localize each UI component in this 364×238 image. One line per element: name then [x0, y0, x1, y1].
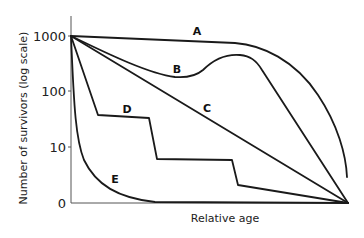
survivorship-chart: 1000 100 10 0 Number of survivors (log s… — [0, 0, 364, 238]
x-axis-title: Relative age — [191, 212, 260, 225]
curve-label-c: C — [203, 102, 211, 115]
curve-label-a: A — [193, 25, 202, 38]
curve-label-d: D — [122, 103, 131, 116]
y-axis-title: Number of survivors (log scale) — [17, 32, 30, 205]
curve-label-e: E — [111, 173, 119, 186]
y-tick-label-100: 100 — [41, 84, 66, 99]
curve-label-b: B — [173, 63, 181, 76]
y-tick-label-0: 0 — [58, 196, 66, 211]
y-tick-label-10: 10 — [49, 140, 66, 155]
y-tick-label-1000: 1000 — [33, 29, 66, 44]
